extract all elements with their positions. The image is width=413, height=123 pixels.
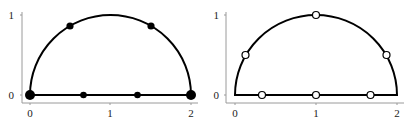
x-tick-label-1: 1 (313, 107, 319, 119)
right-plot: 1 0 0 1 2 (206, 0, 412, 123)
semicircle-curve (30, 15, 191, 95)
filled-node (186, 90, 196, 100)
x-tick-label-0: 0 (232, 107, 238, 119)
x-tick-label-1: 1 (107, 107, 113, 119)
filled-node (147, 22, 154, 29)
open-node (259, 92, 266, 99)
y-tick-label-1: 1 (214, 9, 220, 21)
x-tick-label-2: 2 (394, 107, 400, 119)
filled-node (80, 92, 87, 99)
left-plot-svg: 1 0 0 1 2 (0, 0, 206, 123)
x-tick-label-2: 2 (188, 107, 194, 119)
open-node (313, 12, 320, 19)
filled-node (25, 90, 35, 100)
left-plot: 1 0 0 1 2 (0, 0, 206, 123)
filled-node (134, 92, 141, 99)
filled-node (66, 22, 73, 29)
open-node (383, 52, 390, 59)
open-node (367, 92, 374, 99)
right-plot-svg: 1 0 0 1 2 (206, 0, 413, 123)
y-tick-label-1: 1 (9, 9, 15, 21)
y-tick-label-0: 0 (9, 89, 15, 101)
open-node (242, 52, 249, 59)
open-node (313, 92, 320, 99)
y-tick-label-0: 0 (214, 89, 220, 101)
semicircle-curve (235, 15, 397, 95)
x-tick-label-0: 0 (27, 107, 33, 119)
